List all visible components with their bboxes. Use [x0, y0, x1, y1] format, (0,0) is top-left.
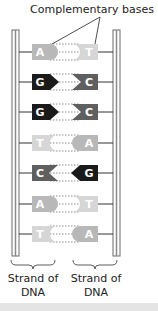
dna-ladder-diagram: ATGCGCTACGATTA — [0, 0, 158, 311]
base-pair: GC — [19, 74, 113, 90]
base-pair: GC — [19, 104, 113, 120]
base-pair: CG — [19, 165, 113, 181]
base-pair: AT — [19, 44, 113, 60]
left-strand — [12, 30, 19, 256]
title-pointer-lines — [52, 17, 100, 44]
right-strand — [113, 30, 120, 256]
base-letter: A — [85, 137, 94, 150]
right-strand-label: Strand of DNA — [66, 272, 126, 300]
base-letter: A — [85, 228, 94, 241]
left-brace — [11, 260, 55, 269]
base-pairs: ATGCGCTACGATTA — [19, 44, 113, 242]
base-letter: T — [36, 137, 44, 150]
base-pair: AT — [19, 196, 113, 212]
right-brace — [73, 260, 117, 269]
base-letter: T — [36, 228, 44, 241]
base-pair: TA — [19, 135, 113, 151]
base-letter: G — [35, 106, 44, 119]
base-letter: C — [85, 76, 93, 89]
base-pair: TA — [19, 226, 113, 242]
base-letter: T — [85, 46, 93, 59]
bottom-bar — [0, 303, 158, 311]
base-letter: A — [36, 46, 45, 59]
base-letter: C — [85, 106, 93, 119]
base-letter: A — [36, 198, 45, 211]
base-letter: T — [85, 198, 93, 211]
base-letter: C — [36, 167, 44, 180]
left-strand-label: Strand of DNA — [3, 272, 63, 300]
base-letter: G — [35, 76, 44, 89]
base-letter: G — [84, 167, 93, 180]
